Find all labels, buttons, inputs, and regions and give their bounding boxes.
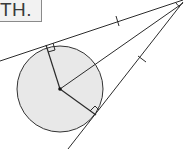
geometry-diagram: [0, 0, 189, 149]
center-to-point-line: [60, 3, 183, 89]
tick-mark-lower: [138, 56, 146, 62]
center-point: [58, 87, 62, 91]
upper-tangent-line: [0, 0, 183, 61]
